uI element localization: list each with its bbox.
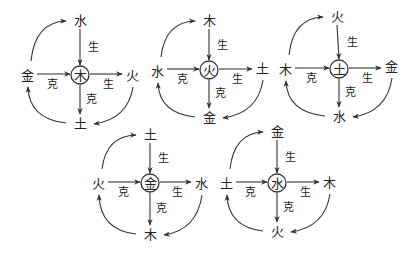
ke-label-out: 克 <box>215 87 226 100</box>
right-element: 水 <box>195 176 208 191</box>
top-element: 土 <box>144 127 157 142</box>
diagram-water: 水金土木火生克生克 <box>220 124 336 239</box>
left-element: 土 <box>220 176 233 191</box>
bottom-element: 金 <box>203 110 216 125</box>
ke-label-out: 克 <box>86 93 97 106</box>
curve-bottom-to-left <box>286 81 325 116</box>
top-element: 木 <box>203 13 216 28</box>
curve-left-to-top <box>230 132 263 169</box>
curve-right-to-bottom <box>164 195 202 235</box>
sheng-label-in: 生 <box>347 35 358 49</box>
curve-left-to-top <box>102 135 136 169</box>
curve-bottom-to-left <box>99 195 136 234</box>
diagram-wood: 木水金火土生克生克 <box>21 13 139 131</box>
right-element: 金 <box>385 59 398 74</box>
right-element: 木 <box>323 175 336 190</box>
sheng-label-in: 生 <box>88 40 99 54</box>
right-element: 火 <box>126 68 139 83</box>
left-element: 金 <box>21 68 34 83</box>
sheng-label-out: 生 <box>103 77 114 91</box>
top-element: 火 <box>331 9 344 24</box>
curve-bottom-to-left <box>158 83 195 117</box>
curve-right-to-bottom <box>223 80 263 118</box>
ke-label-in: 克 <box>47 78 58 91</box>
center-element: 金 <box>144 176 157 191</box>
diagram-fire: 火木水土金生克生克 <box>151 13 269 125</box>
ke-label-in: 克 <box>177 73 188 86</box>
bottom-element: 木 <box>144 227 157 242</box>
ke-label-out: 克 <box>345 86 356 99</box>
sheng-label-in: 生 <box>217 38 228 52</box>
five-elements-diagram: 木水金火土生克生克 火木水土金生克生克 土火木金水生克生克 金土火水木生克生克 … <box>0 0 416 257</box>
curve-bottom-to-left <box>227 195 263 231</box>
sheng-label-in: 生 <box>285 150 296 164</box>
left-element: 火 <box>92 176 105 191</box>
left-element: 木 <box>279 62 292 77</box>
ke-label-out: 克 <box>156 202 167 215</box>
curve-left-to-top <box>161 21 195 57</box>
ke-label-in: 克 <box>245 186 256 199</box>
curve-bottom-to-left <box>28 87 66 123</box>
bottom-element: 土 <box>74 116 87 131</box>
sheng-label-in: 生 <box>158 151 169 165</box>
bottom-element: 火 <box>271 224 284 239</box>
sheng-label-out: 生 <box>362 71 373 85</box>
curve-right-to-bottom <box>353 78 392 117</box>
curve-right-to-bottom <box>291 194 330 232</box>
right-element: 土 <box>256 61 269 76</box>
top-element: 水 <box>74 13 87 28</box>
sheng-label-out: 生 <box>300 185 311 199</box>
ke-label-in: 克 <box>306 72 317 85</box>
center-element: 木 <box>74 68 87 83</box>
curve-left-to-top <box>289 17 323 55</box>
bottom-element: 水 <box>333 109 346 124</box>
diagram-earth: 土火木金水生克生克 <box>279 9 398 124</box>
ke-label-in: 克 <box>118 186 129 199</box>
sheng-label-out: 生 <box>232 72 243 86</box>
ke-label-out: 克 <box>283 201 294 214</box>
center-element: 水 <box>271 176 284 191</box>
curve-right-to-bottom <box>94 87 133 124</box>
sheng-arrow-in <box>337 25 339 59</box>
center-element: 火 <box>203 63 216 78</box>
sheng-label-out: 生 <box>172 185 183 199</box>
diagram-metal: 金土火水木生克生克 <box>92 127 208 242</box>
top-element: 金 <box>271 124 284 139</box>
center-element: 土 <box>333 62 346 77</box>
left-element: 水 <box>151 64 164 79</box>
curve-left-to-top <box>31 21 66 61</box>
